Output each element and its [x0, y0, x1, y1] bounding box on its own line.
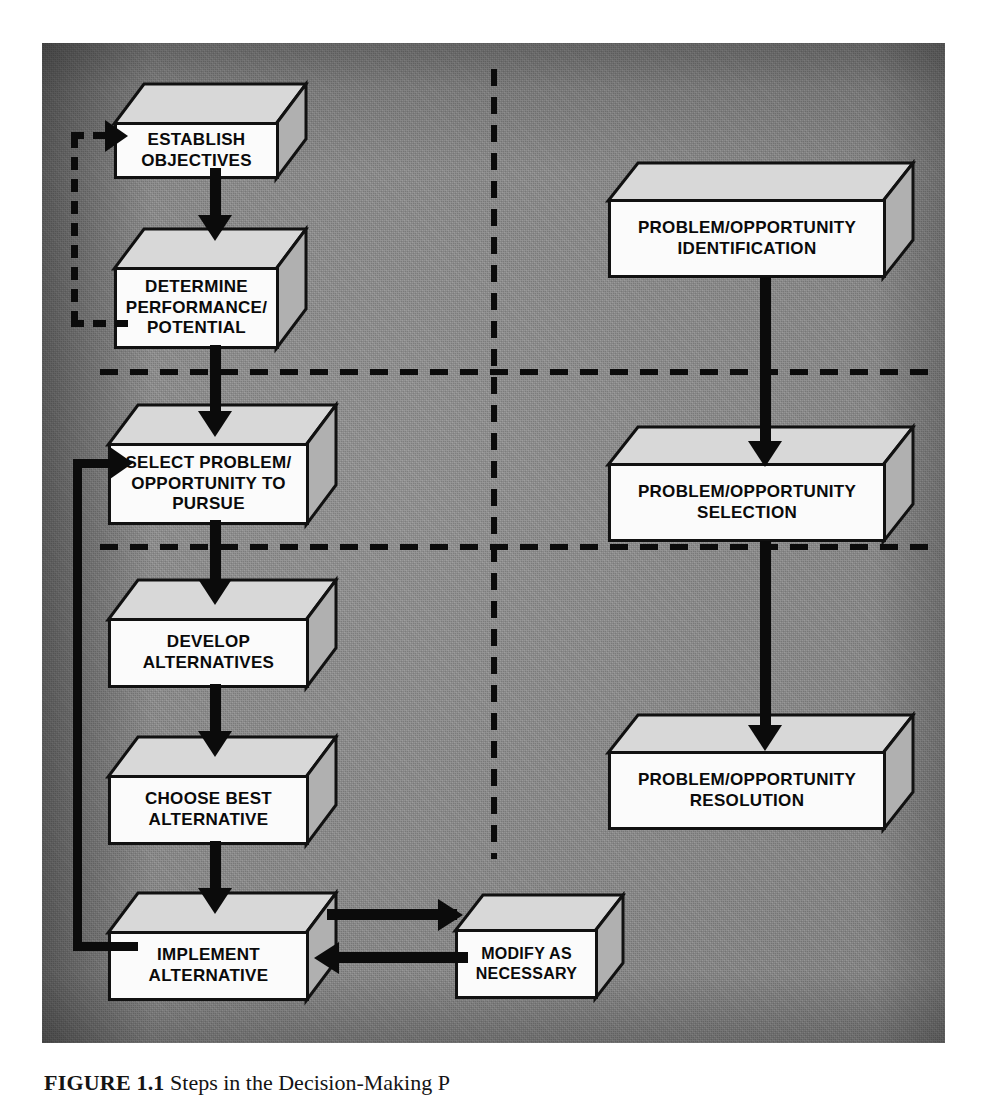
figure-caption: FIGURE 1.1 Steps in the Decision-Making … — [44, 1070, 944, 1096]
arrow-head-implement-to-modify — [438, 899, 463, 931]
arrow-head-modify-to-implement — [314, 942, 339, 974]
arrow-head-select-to-develop — [198, 579, 232, 605]
feedback-dashed-vertical — [71, 135, 78, 327]
arrow-shaft-identification-to-selection — [760, 277, 771, 452]
box-label: CHOOSE BEST ALTERNATIVE — [139, 789, 278, 830]
process-box-choose-best-alternative[interactable]: CHOOSE BEST ALTERNATIVE — [108, 737, 373, 845]
figure-caption-text: Steps in the Decision-Making P — [170, 1070, 450, 1095]
process-box-establish-objectives[interactable]: ESTABLISH OBJECTIVES — [114, 84, 342, 179]
box-label: PROBLEM/OPPORTUNITY IDENTIFICATION — [632, 218, 862, 259]
arrow-head-selection-to-resolution — [748, 725, 782, 751]
process-box-develop-alternatives[interactable]: DEVELOP ALTERNATIVES — [108, 580, 373, 688]
box-front-face: PROBLEM/OPPORTUNITY IDENTIFICATION — [608, 199, 886, 278]
arrow-shaft-selection-to-resolution — [760, 541, 771, 737]
arrow-shaft-determine-to-select — [210, 345, 221, 421]
arrow-head-develop-to-choose — [198, 731, 232, 757]
box-label: PROBLEM/OPPORTUNITY SELECTION — [632, 482, 862, 523]
box-front-face: SELECT PROBLEM/ OPPORTUNITY TO PURSUE — [108, 443, 309, 525]
box-front-face: MODIFY AS NECESSARY — [455, 929, 598, 999]
box-label: PROBLEM/OPPORTUNITY RESOLUTION — [632, 770, 862, 811]
arrow-shaft-select-to-develop — [210, 520, 221, 588]
feedback-solid-vertical — [73, 459, 82, 951]
box-label: SELECT PROBLEM/ OPPORTUNITY TO PURSUE — [119, 453, 297, 515]
box-front-face: PROBLEM/OPPORTUNITY RESOLUTION — [608, 751, 886, 830]
figure-number: FIGURE 1.1 — [44, 1070, 165, 1095]
box-label: ESTABLISH OBJECTIVES — [135, 130, 258, 171]
box-front-face: PROBLEM/OPPORTUNITY SELECTION — [608, 463, 886, 542]
box-front-face: CHOOSE BEST ALTERNATIVE — [108, 775, 309, 845]
feedback-dashed-arrowhead — [105, 120, 128, 152]
box-front-face: ESTABLISH OBJECTIVES — [114, 122, 279, 179]
process-box-modify-as-necessary[interactable]: MODIFY AS NECESSARY — [455, 895, 650, 999]
phase-column-divider — [491, 69, 497, 859]
box-label: DEVELOP ALTERNATIVES — [137, 632, 280, 673]
box-front-face: DETERMINE PERFORMANCE/ POTENTIAL — [114, 267, 279, 349]
arrow-head-identification-to-selection — [748, 441, 782, 467]
arrow-head-determine-to-select — [198, 411, 232, 437]
diagram-panel: ESTABLISH OBJECTIVES DETERMINE PERFORMAN… — [42, 43, 945, 1043]
arrow-shaft-modify-to-implement — [338, 952, 468, 963]
arrow-head-choose-to-implement — [198, 888, 232, 914]
box-label: MODIFY AS NECESSARY — [470, 944, 584, 983]
arrow-shaft-develop-to-choose — [210, 684, 221, 738]
box-label: IMPLEMENT ALTERNATIVE — [143, 945, 275, 986]
box-label: DETERMINE PERFORMANCE/ POTENTIAL — [120, 277, 274, 339]
figure-root: ESTABLISH OBJECTIVES DETERMINE PERFORMAN… — [0, 0, 982, 1098]
arrow-shaft-choose-to-implement — [210, 841, 221, 895]
feedback-dashed-bottom — [71, 320, 128, 327]
phase-divider-identification-selection — [100, 369, 936, 375]
box-front-face: DEVELOP ALTERNATIVES — [108, 618, 309, 688]
process-box-determine-performance[interactable]: DETERMINE PERFORMANCE/ POTENTIAL — [114, 229, 342, 349]
process-box-select-problem[interactable]: SELECT PROBLEM/ OPPORTUNITY TO PURSUE — [108, 405, 373, 525]
phase-divider-selection-resolution — [100, 544, 936, 550]
diagram-stage: ESTABLISH OBJECTIVES DETERMINE PERFORMAN… — [42, 43, 945, 1043]
phase-box-problem-identification[interactable]: PROBLEM/OPPORTUNITY IDENTIFICATION — [608, 163, 938, 278]
feedback-solid-bottom — [73, 942, 138, 951]
box-front-face: IMPLEMENT ALTERNATIVE — [108, 931, 309, 1001]
feedback-solid-arrowhead — [110, 447, 133, 479]
arrow-head-establish-to-determine — [198, 215, 232, 241]
